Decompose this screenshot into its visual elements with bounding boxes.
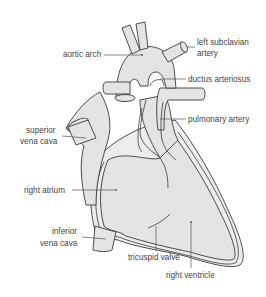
label-ivc-2: vena cava: [40, 239, 78, 248]
label-ivc-1: inferior: [52, 227, 77, 236]
label-ductus-arteriosus: ductus arteriosus: [188, 75, 250, 84]
label-svc-2: vena cava: [20, 137, 58, 146]
label-left-subclavian-1: left subclavian: [197, 38, 249, 47]
label-tricuspid-valve: tricuspid valve: [128, 253, 180, 262]
label-aortic-arch: aortic arch: [63, 50, 102, 59]
label-right-atrium: right atrium: [24, 186, 65, 195]
ductus-arteriosus-vessel: [150, 80, 164, 86]
label-left-subclavian-2: artery: [197, 49, 219, 58]
label-right-ventricle: right ventricle: [166, 271, 215, 280]
heart-illustration: aortic arch left subclavian artery ductu…: [0, 0, 266, 297]
ascending-aorta-opening: [115, 95, 135, 102]
heart-diagram: aortic arch left subclavian artery ductu…: [0, 0, 266, 297]
label-svc-1: superior: [26, 126, 56, 135]
aortic-left-tube: [103, 82, 130, 94]
label-pulmonary-artery: pulmonary artery: [188, 115, 250, 124]
